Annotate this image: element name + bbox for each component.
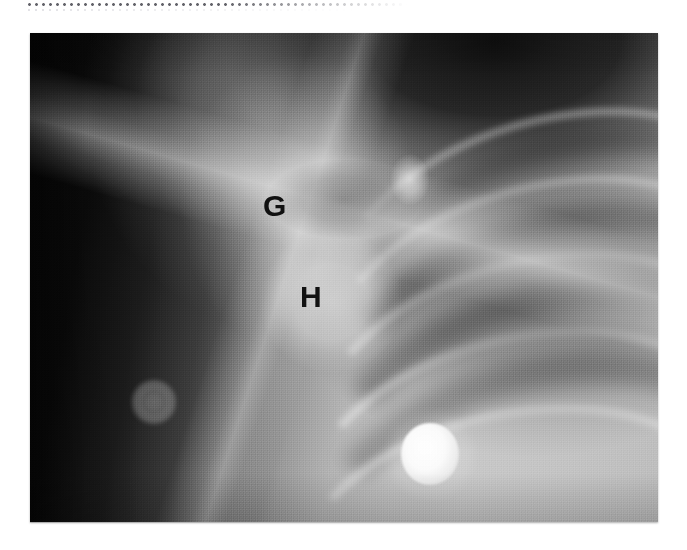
xray-joint-space-shadow-layer: [30, 33, 658, 522]
xray-lung-apex-layer: [30, 33, 658, 522]
xray-glenoid-layer: [30, 33, 658, 522]
radiopaque-marker-glow: [388, 411, 474, 499]
xray-lung-field-layer: [30, 33, 658, 522]
xray-rib-arc: [278, 286, 658, 522]
xray-coracoid-layer: [30, 33, 658, 522]
xray-intercostal-space: [298, 76, 658, 499]
radiograph-image: G H: [30, 33, 658, 522]
faint-disc-marker: [132, 380, 176, 424]
annotation-label-humeral-head: H: [300, 282, 322, 312]
xray-intercostal-space: [281, 228, 658, 522]
xray-rib-arc: [269, 365, 658, 522]
xray-rib-arc: [286, 207, 658, 522]
xray-rib-arc: [295, 130, 658, 502]
xray-film-grain-layer: [30, 33, 658, 522]
radiograph-bottom-edge: [30, 522, 658, 523]
annotation-label-glenoid: G: [263, 191, 286, 221]
radiopaque-marker: [401, 423, 459, 485]
dotted-scan-line-secondary-icon: [28, 9, 358, 12]
xray-film-grain-fine-layer: [30, 33, 658, 522]
xray-edge-vignette-layer: [30, 33, 658, 522]
xray-exposure-gradient-layer: [30, 33, 658, 522]
xray-humeral-head-layer: [30, 33, 658, 522]
xray-rib-arc: [302, 61, 658, 437]
dotted-scan-line-icon: [28, 3, 408, 7]
page-canvas: G H: [0, 0, 687, 550]
xray-intercostal-space: [273, 307, 658, 522]
xray-clavicle-layer: [30, 33, 658, 522]
xray-intercostal-space: [290, 151, 658, 522]
faint-disc-core-marker: [145, 393, 163, 411]
xray-humeral-cortex-layer: [30, 33, 658, 522]
xray-deltoid-soft-tissue-layer: [30, 33, 658, 522]
